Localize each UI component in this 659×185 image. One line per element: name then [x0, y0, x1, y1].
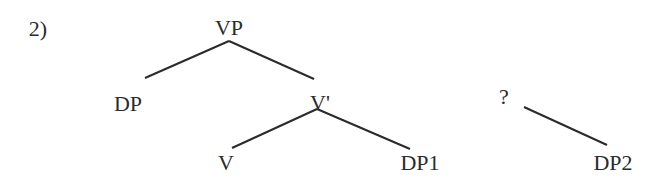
node-vp: VP: [215, 17, 243, 39]
node-dp: DP: [114, 93, 142, 115]
syntax-tree-diagram: 2) VP DP V' V DP1 ? DP2: [0, 0, 659, 185]
node-question: ?: [499, 86, 509, 108]
edge-vp-dp: [145, 41, 229, 78]
edge-vbar-v: [232, 109, 317, 148]
edge-vbar-dp1: [317, 109, 410, 149]
node-dp2: DP2: [593, 152, 632, 174]
edge-q-dp2: [524, 107, 607, 145]
node-dp1: DP1: [400, 152, 439, 174]
edge-vp-vbar: [229, 41, 314, 79]
node-v: V: [218, 152, 234, 174]
node-v-bar: V': [310, 92, 330, 114]
example-number: 2): [29, 18, 47, 40]
